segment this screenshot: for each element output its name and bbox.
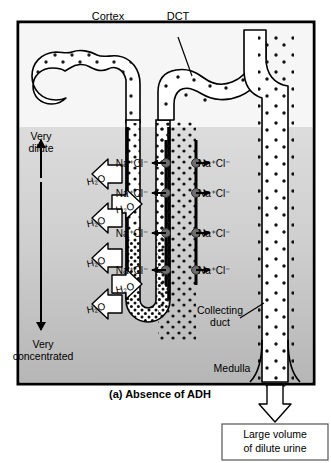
label-nacl-left-3: Na⁺Cl⁻: [116, 188, 148, 199]
label-dct: DCT: [167, 10, 190, 22]
label-cortex: Cortex: [92, 10, 125, 22]
label-very-concentrated-line2: concentrated: [13, 350, 74, 362]
label-nacl-right-4: Na⁺Cl⁻: [198, 188, 230, 199]
label-very-concentrated-line1: Very: [32, 338, 54, 350]
nephron-diagram: Cortex DCT Very dilute Very concentrated…: [0, 0, 331, 463]
label-collecting-duct-line1: Collecting: [197, 304, 243, 316]
label-nacl-left-5: Na⁺Cl⁻: [116, 228, 148, 239]
urine-arrow-shape: [259, 385, 291, 422]
label-nacl-left-1: Na⁺Cl⁻: [116, 158, 148, 169]
label-nacl-right-6: Na⁺Cl⁻: [198, 228, 230, 239]
figure-page: Cortex DCT Very dilute Very concentrated…: [0, 0, 331, 463]
urine-exit-arrow: [259, 385, 291, 422]
label-collecting-duct-line2: duct: [210, 316, 230, 328]
figure-caption: (a) Absence of ADH: [109, 388, 211, 400]
output-box-line2: of dilute urine: [243, 442, 306, 454]
label-medulla: Medulla: [214, 362, 251, 374]
label-nacl-right-8: Na⁺Cl⁻: [198, 265, 230, 276]
label-very-dilute-line1: Very: [30, 130, 52, 142]
label-very-dilute-line2: dilute: [28, 142, 53, 154]
output-box-line1: Large volume: [243, 428, 307, 440]
label-nacl-left-7: Na⁺Cl⁻: [116, 265, 148, 276]
label-nacl-right-2: Na⁺Cl⁻: [198, 158, 230, 169]
